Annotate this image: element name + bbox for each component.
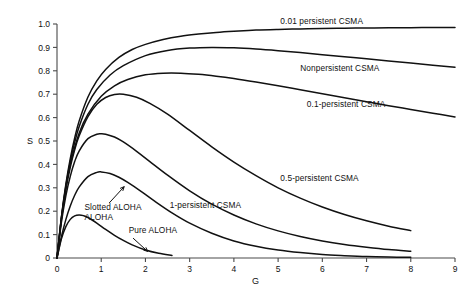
x-tick-label: 0 — [55, 264, 60, 274]
y-tick-label: 0.4 — [38, 160, 50, 170]
label-1-persistent-csma: 1-persistent CSMA — [170, 200, 242, 210]
label-nonpersistent-csma: Nonpersistent CSMA — [300, 63, 380, 73]
curve-nonpersistent-csma — [57, 47, 455, 258]
y-tick-label: 0.9 — [38, 43, 50, 53]
y-tick-label: 0.1 — [38, 230, 50, 240]
y-tick-label: 0.5 — [38, 136, 50, 146]
y-tick-label: 0.2 — [38, 206, 50, 216]
label-0-5-persistent-csma: 0.5-persistent CSMA — [280, 173, 359, 183]
y-tick-label: 1.0 — [38, 19, 50, 29]
leader-slotted-aloha — [109, 187, 124, 203]
x-tick-label: 3 — [187, 264, 192, 274]
label-0-1-persistent-csma: 0.1-persistent CSMA — [307, 99, 386, 109]
y-tick-label: 0.8 — [38, 66, 50, 76]
throughput-vs-load-plot: 00.10.20.30.40.50.60.70.80.91.0S01234567… — [0, 0, 469, 297]
x-tick-label: 5 — [276, 264, 281, 274]
y-tick-label: 0.3 — [38, 183, 50, 193]
x-tick-label: 2 — [143, 264, 148, 274]
x-tick-label: 1 — [99, 264, 104, 274]
x-tick-label: 6 — [320, 264, 325, 274]
x-tick-label: 7 — [364, 264, 369, 274]
label-slotted-aloha-line2: ALOHA — [84, 212, 113, 222]
curve-0-1-persistent-csma — [57, 73, 455, 258]
x-tick-label: 9 — [453, 264, 458, 274]
y-axis-title: S — [27, 136, 33, 146]
label-pure-aloha: Pure ALOHA — [129, 225, 178, 235]
y-tick-label: 0.6 — [38, 113, 50, 123]
leader-pure-aloha — [133, 238, 148, 251]
curve-1-persistent-csma — [57, 134, 411, 258]
x-tick-label: 8 — [408, 264, 413, 274]
label-0-01-persistent-csma: 0.01 persistent CSMA — [280, 16, 363, 26]
curve-pure-aloha — [57, 215, 172, 258]
label-slotted-aloha: Slotted ALOHA — [84, 202, 141, 212]
y-tick-label: 0.7 — [38, 89, 50, 99]
y-tick-label: 0 — [45, 253, 50, 263]
x-axis-title: G — [252, 276, 259, 286]
chart-figure: 00.10.20.30.40.50.60.70.80.91.0S01234567… — [0, 0, 469, 297]
x-tick-label: 4 — [232, 264, 237, 274]
